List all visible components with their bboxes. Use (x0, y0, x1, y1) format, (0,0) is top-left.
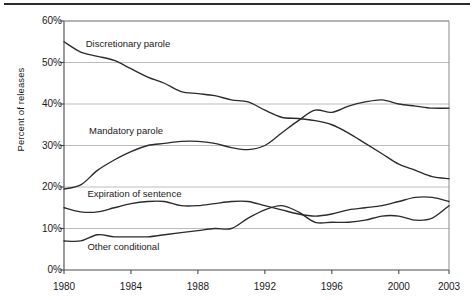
y-tick-label: 40% (28, 99, 62, 109)
x-tick-label: 1996 (321, 282, 343, 292)
series-label-mandatory: Mandatory parole (89, 125, 163, 136)
x-tick-marks (64, 270, 449, 274)
x-tick-label: 1988 (187, 282, 209, 292)
plot-area (0, 0, 475, 300)
header-rule (4, 3, 470, 5)
series-line-3 (64, 206, 449, 242)
x-tick-label: 1984 (120, 282, 142, 292)
y-axis-title: Percent of releases (15, 60, 26, 160)
series-line-1 (64, 100, 449, 189)
x-tick-label: 1992 (254, 282, 276, 292)
x-tick-label: 2003 (438, 282, 460, 292)
y-axis-tick-labels: 0%10%20%30%40%50%60% (26, 0, 62, 300)
x-tick-label: 1980 (53, 282, 75, 292)
y-tick-label: 20% (28, 182, 62, 192)
y-tick-label: 10% (28, 224, 62, 234)
series-label-discretionary: Discretionary parole (86, 38, 170, 49)
series-label-other: Other conditional (87, 241, 159, 252)
y-tick-label: 30% (28, 141, 62, 151)
y-tick-label: 0% (28, 265, 62, 275)
chart-figure: Percent of releases 0%10%20%30%40%50%60%… (0, 0, 475, 300)
x-axis-tick-labels: 1980198419881992199620002003 (0, 282, 475, 298)
data-lines (64, 42, 449, 242)
series-label-expiration: Expiration of sentence (87, 188, 181, 199)
y-tick-label: 50% (28, 58, 62, 68)
x-tick-label: 2000 (388, 282, 410, 292)
y-tick-label: 60% (28, 16, 62, 26)
